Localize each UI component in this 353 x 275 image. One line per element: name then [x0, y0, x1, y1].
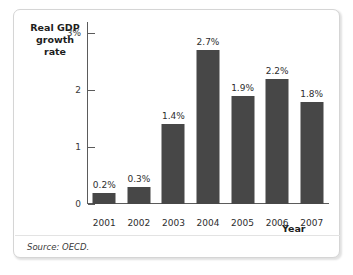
bar-group[interactable]: 2.2%	[260, 22, 295, 204]
bar-group[interactable]: 0.2%	[87, 22, 122, 204]
footer-divider	[15, 235, 340, 236]
bar-rect[interactable]	[266, 79, 289, 204]
bar-rect[interactable]	[127, 187, 150, 204]
bars-layer: 0.2%20010.3%20021.4%20032.7%20041.9%2005…	[87, 22, 329, 204]
bar-value-label: 0.2%	[93, 181, 116, 190]
bar-group[interactable]: 1.8%	[294, 22, 329, 204]
bar-rect[interactable]	[231, 96, 254, 204]
y-tick-label: 1	[41, 143, 81, 152]
bar-group[interactable]: 1.4%	[156, 22, 191, 204]
figure-frame: Real GDP growth rate 0123% 0.2%20010.3%2…	[13, 9, 340, 258]
x-tick-label: 2004	[191, 219, 226, 228]
x-tick-label: 2003	[156, 219, 191, 228]
bar-value-label: 1.4%	[162, 112, 185, 121]
y-tick-mark	[88, 204, 95, 205]
bar-rect[interactable]	[93, 193, 116, 204]
bar-value-label: 0.3%	[127, 175, 150, 184]
source-note: Source: OECD.	[27, 242, 89, 252]
y-tick-label: 2	[41, 86, 81, 95]
x-tick-label: 2002	[122, 219, 157, 228]
bar-rect[interactable]	[300, 102, 323, 204]
bar-value-label: 2.7%	[197, 38, 220, 47]
bar-value-label: 1.8%	[300, 90, 323, 99]
bar-rect[interactable]	[162, 124, 185, 204]
y-tick-label: 3%	[41, 29, 81, 38]
bar-value-label: 2.2%	[266, 67, 289, 76]
bar-group[interactable]: 1.9%	[225, 22, 260, 204]
bar-group[interactable]: 0.3%	[122, 22, 157, 204]
x-tick-label: 2005	[225, 219, 260, 228]
y-tick-label: 0	[41, 200, 81, 209]
x-tick-label: 2001	[87, 219, 122, 228]
chart-plot-area: Real GDP growth rate 0123% 0.2%20010.3%2…	[14, 10, 341, 259]
bar-value-label: 1.9%	[231, 84, 254, 93]
x-axis-title: Year	[282, 223, 306, 234]
bar-rect[interactable]	[196, 50, 219, 204]
bar-group[interactable]: 2.7%	[191, 22, 226, 204]
